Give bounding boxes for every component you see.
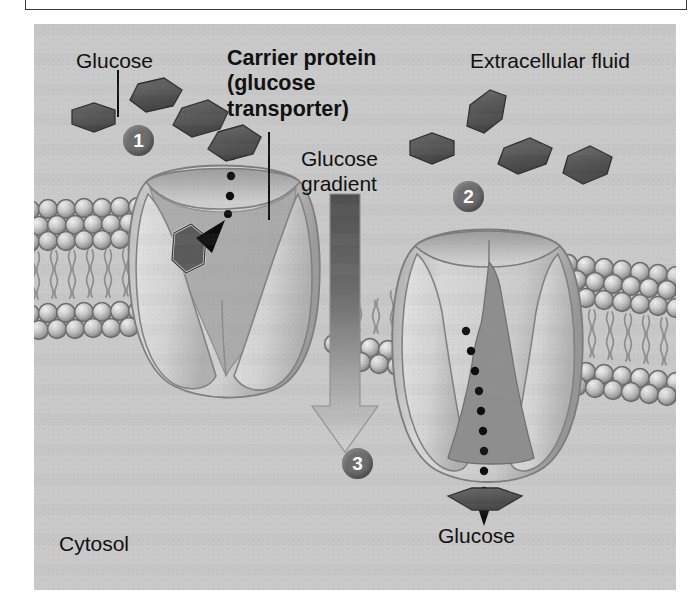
step-marker-1: 1 <box>123 125 154 156</box>
glucose-bound-in-transporter <box>172 224 206 273</box>
label-cytosol: Cytosol <box>59 532 129 557</box>
label-glucose-cytosolic: Glucose <box>438 524 515 549</box>
glucose-gradient-arrow <box>312 194 378 452</box>
glucose-molecule-cytosolic <box>448 488 522 510</box>
carrier-protein-left <box>129 166 320 398</box>
label-glucose-extracellular: Glucose <box>76 49 153 74</box>
step-marker-3: 3 <box>342 448 373 479</box>
figure-panel: Glucose Carrier protein (glucose transpo… <box>34 24 676 590</box>
glucose-molecules-extracellular-right <box>410 90 612 184</box>
label-carrier-protein: Carrier protein (glucose transporter) <box>227 46 376 122</box>
step-marker-2: 2 <box>453 181 484 212</box>
carrier-protein-right <box>392 230 582 483</box>
label-extracellular-fluid: Extracellular fluid <box>470 49 630 74</box>
page-rule-box <box>25 0 687 10</box>
label-glucose-gradient: Glucose gradient <box>301 147 378 197</box>
